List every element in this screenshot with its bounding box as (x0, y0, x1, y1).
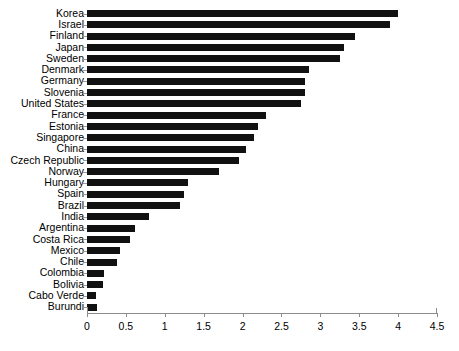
bar-chart: KoreaIsraelFinlandJapanSwedenDenmarkGerm… (0, 0, 459, 351)
bar-row (87, 76, 437, 87)
bar-row (87, 110, 437, 121)
bar-row (87, 31, 437, 42)
bar (87, 134, 254, 141)
bar (87, 213, 149, 220)
bar (87, 281, 103, 288)
bar (87, 21, 390, 28)
category-label: Korea (0, 8, 84, 19)
bar (87, 292, 96, 299)
x-tick (398, 313, 399, 317)
x-tick (320, 313, 321, 317)
bar (87, 89, 305, 96)
x-tick (126, 313, 127, 317)
x-tick-label: 2 (240, 320, 246, 332)
category-axis-labels: KoreaIsraelFinlandJapanSwedenDenmarkGerm… (0, 8, 84, 313)
x-tick (243, 313, 244, 317)
bar-row (87, 200, 437, 211)
plot-area (87, 8, 437, 313)
bar-row (87, 64, 437, 75)
bar-row (87, 121, 437, 132)
bar (87, 157, 239, 164)
bar-row (87, 98, 437, 109)
bar (87, 55, 340, 62)
bar-row (87, 189, 437, 200)
bar (87, 191, 184, 198)
bar (87, 66, 309, 73)
bar (87, 225, 135, 232)
bar-row (87, 155, 437, 166)
bar (87, 236, 130, 243)
bar-row (87, 19, 437, 30)
x-tick-label: 1.5 (196, 320, 211, 332)
x-tick (87, 313, 88, 317)
bar-row (87, 166, 437, 177)
bar-row (87, 279, 437, 290)
x-tick-label: 0 (84, 320, 90, 332)
bar-row (87, 223, 437, 234)
x-tick-label: 1 (162, 320, 168, 332)
bar (87, 10, 398, 17)
bar-row (87, 53, 437, 64)
category-label: Germany (0, 75, 84, 86)
x-tick (359, 313, 360, 317)
bar (87, 202, 180, 209)
bar-row (87, 8, 437, 19)
bar (87, 146, 246, 153)
x-tick-label: 2.5 (274, 320, 289, 332)
category-label: Japan (0, 42, 84, 53)
category-label: Spain (0, 188, 84, 199)
bar (87, 270, 104, 277)
category-label: Costa Rica (0, 234, 84, 245)
x-tick-label: 0.5 (119, 320, 134, 332)
bar-row (87, 87, 437, 98)
bar-row (87, 177, 437, 188)
category-label: Finland (0, 30, 84, 41)
category-label: China (0, 143, 84, 154)
category-label: France (0, 109, 84, 120)
x-tick-label: 3 (317, 320, 323, 332)
bar (87, 100, 301, 107)
bar-row (87, 257, 437, 268)
bar-row (87, 245, 437, 256)
x-tick-label: 4 (395, 320, 401, 332)
category-label: Czech Republic (0, 155, 84, 166)
x-tick (281, 313, 282, 317)
bar (87, 44, 344, 51)
bar-row (87, 42, 437, 53)
x-tick (165, 313, 166, 317)
bar-row (87, 211, 437, 222)
bar-row (87, 132, 437, 143)
bar-row (87, 302, 437, 313)
x-tick (204, 313, 205, 317)
bar (87, 247, 120, 254)
bar (87, 123, 258, 130)
x-tick-label: 4.5 (430, 320, 445, 332)
category-label: Burundi (0, 301, 84, 312)
bar (87, 112, 266, 119)
x-tick (437, 313, 438, 317)
bar (87, 259, 117, 266)
x-axis-line (87, 313, 437, 314)
bar-row (87, 144, 437, 155)
bar-row (87, 290, 437, 301)
bar (87, 168, 219, 175)
x-tick-label: 3.5 (352, 320, 367, 332)
category-label: Colombia (0, 267, 84, 278)
bar-row (87, 268, 437, 279)
bar (87, 78, 305, 85)
bar (87, 304, 97, 311)
bar (87, 33, 355, 40)
bar-row (87, 234, 437, 245)
category-label: Estonia (0, 121, 84, 132)
category-label: Argentina (0, 222, 84, 233)
bar (87, 179, 188, 186)
